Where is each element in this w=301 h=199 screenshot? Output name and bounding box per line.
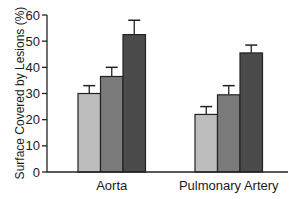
x-axis: AortaPulmonary Artery [47, 172, 288, 193]
y-tick-label: 50 [26, 34, 40, 49]
y-axis-title: Surface Covered by Lesions (%) [13, 7, 27, 180]
bar [195, 114, 218, 172]
y-tick-label: 20 [26, 112, 40, 127]
bar [78, 94, 101, 173]
bar [101, 76, 124, 172]
y-tick-label: 30 [26, 86, 40, 101]
x-category-label: Pulmonary Artery [179, 178, 279, 193]
bar-chart: 0102030405060 AortaPulmonary Artery Surf… [0, 0, 301, 199]
bar-group-pulmonary-artery [195, 45, 263, 172]
bars-group [78, 20, 263, 172]
y-tick-label: 0 [33, 165, 40, 180]
bar [240, 53, 263, 172]
y-tick-label: 40 [26, 60, 40, 75]
bar-group-aorta [78, 20, 146, 172]
y-tick-label: 10 [26, 138, 40, 153]
bar [218, 95, 241, 172]
y-tick-label: 60 [26, 8, 40, 23]
y-axis: 0102030405060 [26, 8, 47, 180]
bar [123, 35, 146, 172]
x-category-label: Aorta [96, 178, 128, 193]
